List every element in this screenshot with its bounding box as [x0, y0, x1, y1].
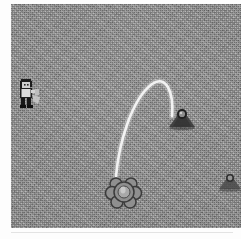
frame-top-margin [0, 0, 241, 4]
projectile-arc-line [116, 81, 172, 176]
secondary-mound-target-sprite[interactable] [216, 170, 241, 192]
game-screenshot [0, 0, 241, 239]
frame-bottom-band [0, 228, 241, 239]
projectile-arc-glow [116, 81, 172, 176]
frame-left-margin [0, 0, 11, 239]
frame-bottom-divider [11, 232, 233, 233]
game-playfield[interactable] [11, 4, 241, 228]
player-character-sprite[interactable] [14, 77, 44, 109]
cloud-puff-launcher-sprite[interactable] [104, 172, 144, 212]
mound-target-sprite[interactable] [166, 105, 198, 131]
